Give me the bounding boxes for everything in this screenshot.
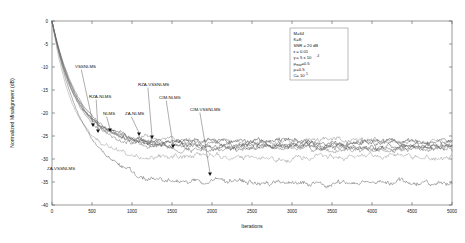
x-tick-label: 1000 xyxy=(127,209,138,214)
x-axis-title: Iterations xyxy=(241,223,263,229)
y-tick-label: -20 xyxy=(41,111,48,116)
y-tick-label: -5 xyxy=(44,42,49,47)
parameter-text: K=8; xyxy=(294,37,303,42)
annotation-label-za-vssnlms: ZA-VSSNLMS xyxy=(47,166,75,171)
annotation-label-rza-nlms: RZA-NLMS xyxy=(89,94,112,99)
parameter-text: = 10 xyxy=(296,73,305,78)
y-axis-title: Normalized Misalignment (dB) xyxy=(9,78,15,148)
annotation-label-cim-vssnlms: CIM-VSSNLMS xyxy=(190,107,221,112)
parameter-text: = 0.01 xyxy=(296,49,308,54)
y-tick-label: -15 xyxy=(41,88,48,93)
misalignment-line-chart: 0500100015002000250030003500400045005000… xyxy=(0,0,465,243)
x-tick-label: 4500 xyxy=(407,209,418,214)
parameter-superscript: -4 xyxy=(317,54,320,58)
parameter-text: = 5 x 10 xyxy=(296,55,312,60)
parameter-line: ρ=0.5 xyxy=(294,67,306,72)
parameter-text: =0.5 xyxy=(301,61,310,66)
x-tick-label: 0 xyxy=(51,209,54,214)
annotation-label-za-nlms: ZA-NLMS xyxy=(125,111,144,116)
parameter-text: M=64 xyxy=(294,31,305,36)
x-tick-label: 500 xyxy=(88,209,96,214)
chart-container: 0500100015002000250030003500400045005000… xyxy=(0,0,465,243)
annotation-label-rza-vssnlms: RZA-VSSNLMS xyxy=(138,82,169,87)
annotation-label-nlms: NLMS xyxy=(103,111,115,116)
parameter-line: K=8; xyxy=(294,37,303,42)
x-tick-label: 5000 xyxy=(447,209,458,214)
chart-background xyxy=(0,0,465,243)
y-tick-label: -25 xyxy=(41,134,48,139)
x-tick-label: 2000 xyxy=(207,209,218,214)
x-tick-label: 3500 xyxy=(327,209,338,214)
y-tick-label: -35 xyxy=(41,180,48,185)
y-tick-label: -10 xyxy=(41,65,48,70)
y-tick-label: -40 xyxy=(41,203,48,208)
parameter-symbol: ε xyxy=(294,49,296,54)
y-tick-label: -30 xyxy=(41,157,48,162)
parameter-text: =0.5 xyxy=(296,67,305,72)
parameter-superscript: -5 xyxy=(305,72,308,76)
x-tick-label: 1500 xyxy=(167,209,178,214)
x-tick-label: 4000 xyxy=(367,209,378,214)
parameter-line: ε= 0.01 xyxy=(294,49,309,54)
x-tick-label: 2500 xyxy=(247,209,258,214)
annotation-label-vssnlms: VSSNLMS xyxy=(75,64,96,69)
parameter-box: M=64K=8;SNR = 20 dBε= 0.01γ = 5 x 10-4μm… xyxy=(290,28,348,80)
parameter-line: M=64 xyxy=(294,31,305,36)
parameter-line: SNR = 20 dB xyxy=(294,43,319,48)
x-tick-label: 3000 xyxy=(287,209,298,214)
annotation-label-cim-nlms: CIM-NLMS xyxy=(159,95,181,100)
parameter-text: SNR = 20 dB xyxy=(294,43,319,48)
y-tick-label: 0 xyxy=(45,19,48,24)
